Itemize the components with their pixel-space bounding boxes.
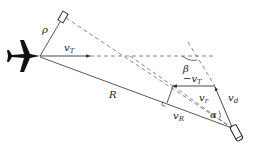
- vR-label: vR: [173, 110, 185, 123]
- alpha-label: α: [210, 109, 217, 120]
- neg-vT-label: −vT: [183, 73, 203, 86]
- R-label: R: [108, 89, 117, 100]
- vd-label: vd: [228, 92, 239, 105]
- beta-arc: [182, 56, 197, 61]
- box-marker-icon: [58, 11, 68, 23]
- vr-label: vr: [199, 92, 209, 105]
- perpendicular-line: [167, 86, 173, 103]
- missile-icon: [230, 124, 244, 141]
- engagement-diagram: ρ vT β −vT R vr vd vR α: [0, 0, 261, 157]
- alpha-arc: [219, 111, 220, 118]
- vr-dashed-line-upper: [130, 56, 173, 86]
- vT-label: vT: [64, 42, 76, 55]
- right-angle-mark-rho: [57, 27, 61, 30]
- rho-label: ρ: [41, 24, 48, 35]
- aircraft-icon: [7, 40, 40, 72]
